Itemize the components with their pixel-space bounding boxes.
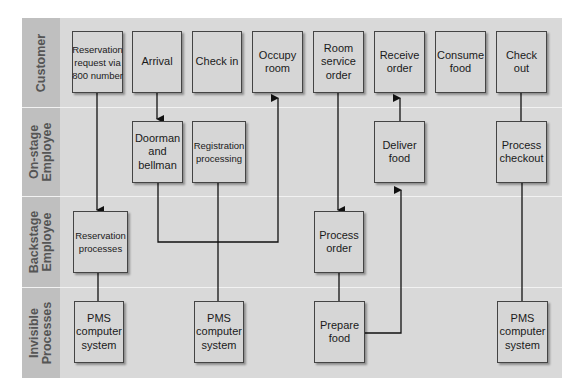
lane-label-onstage: On-stageEmployee [22,108,60,196]
lane-onstage: On-stageEmployee [22,108,562,197]
step-pms-system-3: PMS computer system [497,301,548,363]
step-check-in: Check in [192,31,242,93]
lane-title-line: Employee [41,211,54,274]
step-pms-system-1: PMS computer system [74,301,124,363]
lane-title-line: Processes [41,302,54,365]
step-reservation-request: Reservation request via 800 number [72,31,123,93]
step-deliver-food: Deliver food [374,121,425,183]
lane-label-customer: Customer [22,18,60,107]
step-reservation-processes: Reservation processes [73,211,128,273]
step-arrival: Arrival [132,31,182,93]
step-check-out: Check out [496,31,547,93]
step-prepare-food: Prepare food [314,301,365,363]
lane-title: On-stageEmployee [28,122,54,181]
lane-title: Customer [35,33,48,91]
step-room-service-order: Room service order [313,31,364,93]
step-pms-system-2: PMS computer system [194,301,244,363]
step-doorman-bellman: Doorman and bellman [132,121,183,183]
step-process-checkout: Process checkout [496,121,547,183]
lane-label-invisible: InvisibleProcesses [22,288,60,378]
lane-title-line: Employee [41,122,54,181]
lane-label-backstage: BackstageEmployee [22,197,60,287]
step-occupy-room: Occupy room [252,31,303,93]
step-receive-order: Receive order [374,31,425,93]
step-process-order: Process order [314,211,364,273]
step-consume-food: Consume food [435,31,486,93]
lane-title: BackstageEmployee [28,211,54,274]
lane-title: InvisibleProcesses [28,302,54,365]
step-registration-processing: Registration processing [192,121,246,183]
